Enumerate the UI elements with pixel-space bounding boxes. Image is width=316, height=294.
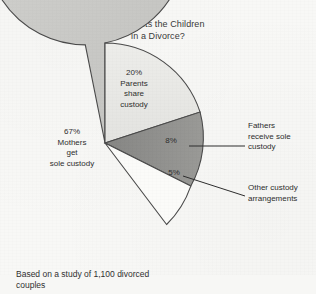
chart-caption: Based on a study of 1,100 divorced coupl… bbox=[16, 258, 296, 294]
slice-label-share-custody: 20% Parents share custody bbox=[100, 68, 168, 110]
annotation-fathers: Fathers receive sole custody bbox=[248, 121, 314, 153]
slice-label-other-percent: 5% bbox=[163, 168, 185, 179]
slice-label-fathers-percent: 8% bbox=[160, 136, 182, 147]
leader-line-other bbox=[183, 176, 245, 196]
annotation-other-custody: Other custody arrangements bbox=[248, 183, 314, 204]
chart-caption-line1: Based on a study of 1,100 divorced bbox=[16, 269, 149, 279]
chart-caption-line2: couples bbox=[16, 280, 296, 291]
slice-label-mothers: 67% Mothers get sole custody bbox=[26, 127, 118, 169]
